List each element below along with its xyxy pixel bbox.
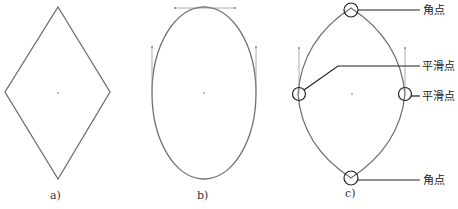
panel-b-label: b) — [197, 189, 208, 202]
right-handle-end — [404, 47, 406, 49]
panel-c: 角点 平滑点 平滑点 角点 c) — [293, 3, 456, 200]
panel-a-label: a) — [50, 189, 61, 202]
center-point — [57, 92, 59, 94]
right-handle-end — [255, 46, 257, 48]
lens-path — [298, 8, 405, 178]
bottom-corner-label: 角点 — [423, 174, 445, 187]
panel-a: a) — [5, 7, 110, 202]
figure-canvas: a) b) 角点 平滑点 平滑点 角点 c) — [0, 0, 458, 209]
panel-b: b) — [151, 7, 257, 202]
top-corner-marker — [344, 3, 358, 17]
center-point — [203, 92, 205, 94]
left-handle-end — [151, 46, 153, 48]
panel-c-label: c) — [345, 187, 355, 200]
top-handle-end-right — [234, 7, 236, 9]
top-corner-label: 角点 — [423, 4, 445, 17]
left-handle-end — [298, 47, 300, 49]
center-point — [351, 93, 353, 95]
left-smooth-label: 平滑点 — [422, 60, 455, 73]
top-handle-end-left — [174, 7, 176, 9]
right-smooth-label: 平滑点 — [422, 90, 455, 103]
